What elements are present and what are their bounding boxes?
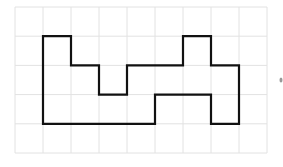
dot-marker (280, 78, 283, 83)
grid-lines (15, 7, 267, 153)
grid-diagram (0, 0, 283, 167)
polyomino-outline (43, 36, 239, 124)
